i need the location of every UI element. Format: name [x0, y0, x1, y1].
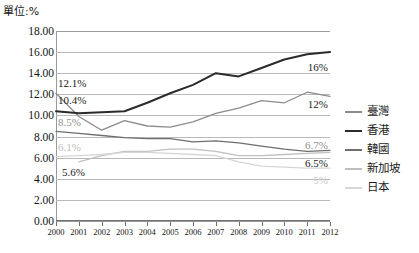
data-label: 5%	[0, 174, 328, 186]
x-tick-mark	[147, 222, 148, 226]
x-tick-label: 2005	[162, 227, 179, 237]
legend-item-韓國[interactable]: 韓國	[345, 140, 419, 159]
x-tick-mark	[170, 222, 171, 226]
legend-swatch-icon	[345, 187, 362, 189]
x-axis-tick-labels: 2000200120022003200420052006200720082009…	[56, 222, 330, 242]
y-tick-label: 18.00	[2, 25, 54, 37]
x-tick-label: 2002	[93, 227, 110, 237]
x-tick-label: 2007	[207, 227, 224, 237]
x-tick-mark	[56, 222, 57, 226]
data-label: 6.7%	[0, 139, 328, 151]
legend-swatch-icon	[345, 130, 362, 132]
data-label: 8.5%	[58, 116, 81, 128]
legend: 臺灣香港韓國新加坡日本	[345, 102, 419, 197]
legend-label: 韓國	[367, 144, 389, 156]
legend-item-日本[interactable]: 日本	[345, 178, 419, 197]
x-tick-label: 2009	[253, 227, 270, 237]
legend-label: 臺灣	[367, 106, 389, 118]
y-tick-label: 2.00	[2, 194, 54, 206]
x-tick-label: 2006	[185, 227, 202, 237]
x-tick-mark	[284, 222, 285, 226]
legend-label: 新加坡	[367, 163, 400, 175]
x-tick-label: 2003	[116, 227, 133, 237]
x-tick-mark	[239, 222, 240, 226]
legend-swatch-icon	[345, 149, 362, 151]
x-tick-label: 2008	[230, 227, 247, 237]
line-chart: 單位:% 0.002.004.006.008.0010.0012.0014.00…	[0, 0, 419, 253]
unit-label: 單位:%	[3, 2, 39, 18]
x-tick-mark	[216, 222, 217, 226]
legend-item-臺灣[interactable]: 臺灣	[345, 102, 419, 121]
x-tick-mark	[102, 222, 103, 226]
x-tick-label: 2010	[276, 227, 293, 237]
x-tick-mark	[330, 222, 331, 226]
legend-item-新加坡[interactable]: 新加坡	[345, 159, 419, 178]
x-tick-mark	[79, 222, 80, 226]
legend-label: 香港	[367, 125, 389, 137]
x-tick-mark	[307, 222, 308, 226]
x-tick-mark	[262, 222, 263, 226]
legend-swatch-icon	[345, 111, 362, 113]
data-label: 12%	[0, 98, 328, 110]
x-tick-label: 2011	[299, 227, 316, 237]
y-tick-label: 16.00	[2, 46, 54, 58]
legend-swatch-icon	[345, 168, 362, 170]
legend-item-香港[interactable]: 香港	[345, 121, 419, 140]
x-tick-mark	[193, 222, 194, 226]
x-tick-label: 2004	[139, 227, 156, 237]
y-tick-label: 0.00	[2, 215, 54, 227]
x-tick-label: 2000	[48, 227, 65, 237]
y-axis-tick-labels: 0.002.004.006.008.0010.0012.0014.0016.00…	[0, 31, 54, 221]
x-tick-label: 2012	[322, 227, 339, 237]
y-tick-label: 10.00	[2, 109, 54, 121]
series-lines	[56, 31, 330, 221]
x-tick-mark	[125, 222, 126, 226]
data-label: 12.1%	[58, 77, 86, 89]
data-label: 6.5%	[0, 157, 328, 169]
data-label: 16%	[0, 61, 328, 73]
x-tick-label: 2001	[70, 227, 87, 237]
legend-label: 日本	[367, 182, 389, 194]
